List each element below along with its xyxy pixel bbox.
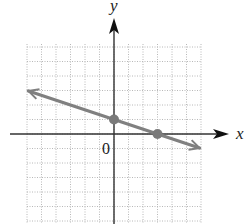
data-point-x-intercept xyxy=(153,129,163,139)
data-point-y-intercept xyxy=(109,115,119,125)
coordinate-plane: x y 0 xyxy=(0,0,246,224)
y-axis-label: y xyxy=(108,0,118,15)
x-axis-label: x xyxy=(235,124,244,143)
origin-label: 0 xyxy=(102,140,110,157)
